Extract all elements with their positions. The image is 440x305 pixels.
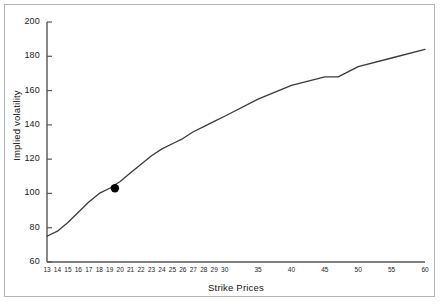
highlighted-point-marker (111, 184, 119, 192)
plot-canvas (0, 0, 440, 305)
chart-figure: Implied volatility Strike Prices 2001801… (0, 0, 440, 305)
implied-volatility-curve (47, 49, 425, 236)
axes (47, 22, 425, 262)
y-axis-tick-marks (47, 22, 52, 262)
